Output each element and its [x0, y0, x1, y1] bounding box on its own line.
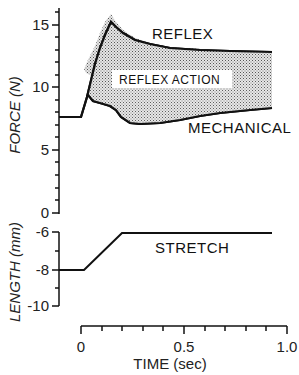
- force-axis-title: FORCE (N): [6, 76, 23, 154]
- force-tick-10: 10: [32, 78, 49, 95]
- reflex-label: REFLEX: [152, 25, 213, 42]
- stretch-label: STRETCH: [155, 239, 229, 256]
- mechanical-label: MECHANICAL: [188, 119, 291, 136]
- time-tick-0: 0: [77, 338, 85, 355]
- length-y-axis: [52, 232, 59, 306]
- time-tick-1-0: 1.0: [277, 338, 298, 355]
- reflex-action-label: REFLEX ACTION: [119, 73, 220, 87]
- length-axis-title: LENGTH (mm): [6, 222, 23, 322]
- time-tick-0-5: 0.5: [174, 338, 195, 355]
- time-x-axis: [81, 326, 287, 334]
- force-tick-5: 5: [41, 141, 49, 158]
- length-tick-neg6: -6: [36, 223, 49, 240]
- length-tick-neg8: -8: [36, 261, 49, 278]
- reflex-force-chart: 15 10 5 0 FORCE (N) REFLEX ACTION REFLEX…: [0, 0, 299, 375]
- length-tick-neg10: -10: [27, 297, 49, 314]
- force-tick-15: 15: [32, 16, 49, 33]
- time-axis-title: TIME (sec): [133, 355, 206, 372]
- force-tick-0: 0: [41, 204, 49, 221]
- force-y-axis: [52, 8, 59, 214]
